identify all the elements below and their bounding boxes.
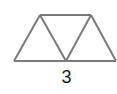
triangle-count-label: 3 [0,67,117,87]
inner-diagonal-right [66,15,91,61]
triangle-figure: 3 [0,0,117,94]
right-side [91,15,116,61]
left-side [14,15,40,61]
inner-diagonal-left [40,15,66,61]
